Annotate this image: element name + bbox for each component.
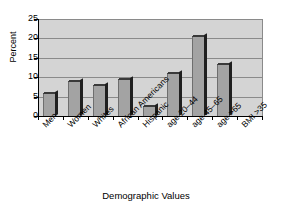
bar-chart: Percent 0510152025 MenWomenWhitesAfrican…	[0, 0, 292, 208]
bar	[118, 79, 130, 116]
bar-3d-side	[179, 70, 182, 116]
bar	[192, 36, 204, 116]
bar-3d-top	[168, 72, 179, 74]
bar	[43, 93, 55, 116]
bar-3d-top	[144, 105, 155, 107]
plot-area	[38, 19, 263, 117]
x-tick-mark	[262, 116, 263, 120]
bar-3d-side	[229, 61, 232, 116]
bar-slot	[114, 19, 139, 116]
bar-3d-top	[69, 80, 80, 82]
x-axis-title: Demographic Values	[0, 190, 292, 201]
bar-3d-side	[204, 34, 207, 116]
x-tick-mark	[212, 116, 213, 120]
bar-3d-top	[193, 35, 204, 37]
bar-3d-side	[55, 90, 58, 116]
x-tick-mark	[138, 116, 139, 120]
bar-3d-top	[119, 78, 130, 80]
x-tick-mark	[63, 116, 64, 120]
bar-3d-side	[105, 82, 108, 116]
x-axis-ticks	[38, 116, 263, 121]
bar	[217, 64, 229, 116]
bar-slot	[139, 19, 164, 116]
bar-slot	[64, 19, 89, 116]
x-tick-mark	[162, 116, 163, 120]
bar-3d-side	[130, 76, 133, 116]
x-tick-mark	[88, 116, 89, 120]
bar-3d-top	[44, 92, 55, 94]
bar-3d-side	[80, 78, 83, 116]
bar-slot	[238, 19, 263, 116]
bar-3d-side	[155, 103, 158, 116]
x-tick-mark	[38, 116, 39, 120]
bar-slot	[163, 19, 188, 116]
y-axis-ticks: 0510152025	[16, 0, 38, 208]
bar-slot	[188, 19, 213, 116]
bar-slot	[89, 19, 114, 116]
bar-3d-top	[218, 63, 229, 65]
bar	[167, 73, 179, 116]
x-tick-mark	[237, 116, 238, 120]
bar	[68, 81, 80, 116]
bar-3d-top	[94, 84, 105, 86]
bar	[93, 85, 105, 116]
x-tick-mark	[187, 116, 188, 120]
bar	[143, 106, 155, 116]
x-tick-mark	[113, 116, 114, 120]
bar-slot	[213, 19, 238, 116]
bar-slot	[39, 19, 64, 116]
